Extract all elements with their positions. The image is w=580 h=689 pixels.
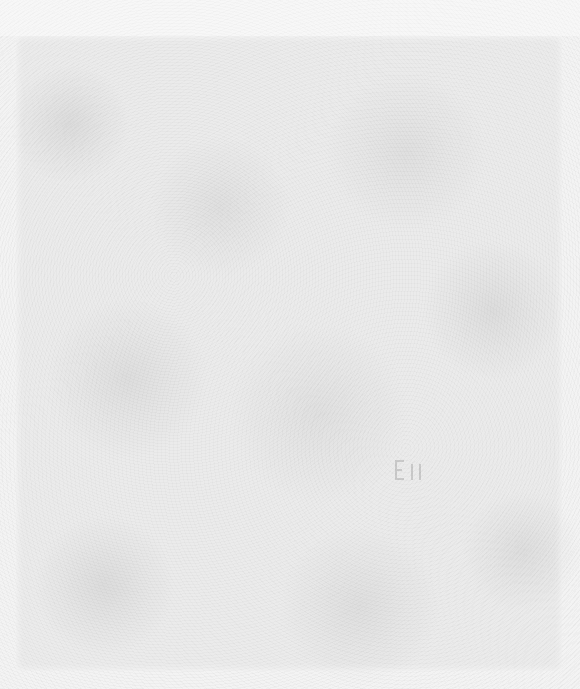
top-margin [0,0,580,36]
faint-illegible-mark [393,458,427,484]
inner-paper-panel [16,36,562,671]
paper-texture-background [0,0,580,689]
